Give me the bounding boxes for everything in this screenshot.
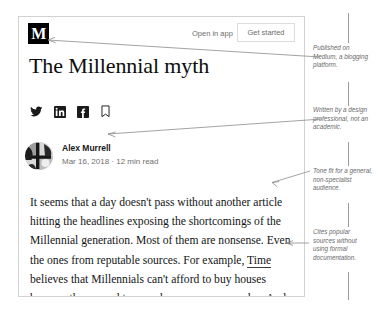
annotation-spine-3: [348, 142, 349, 166]
bookmark-icon[interactable]: [100, 105, 111, 118]
annotation-tone: Tone fit for a general, non-specialist a…: [313, 167, 373, 193]
annotation-sources: Cites popular sources without using form…: [313, 228, 373, 262]
twitter-icon[interactable]: [30, 105, 43, 118]
screenshot-root: M Open in app Get started The Millennial…: [0, 0, 379, 313]
medium-logo-icon[interactable]: M: [28, 23, 49, 44]
share-row: [30, 105, 111, 118]
article-card: M Open in app Get started The Millennial…: [18, 16, 305, 297]
article-topbar: M Open in app Get started: [19, 17, 304, 51]
annotation-spine-1: [348, 13, 349, 43]
body-text-part-2: believes that Millennials can't afford t…: [30, 273, 286, 297]
time-source-link[interactable]: Time: [247, 254, 271, 268]
annotation-spine-5: [348, 272, 349, 300]
facebook-icon[interactable]: [77, 106, 89, 118]
annotation-spine-2: [348, 82, 349, 106]
annotation-author-credential: Written by a design professional, not an…: [313, 106, 373, 132]
annotation-published-on: Published on Medium, a blogging platform…: [313, 44, 373, 70]
open-in-app-link[interactable]: Open in app: [192, 29, 233, 38]
byline-meta: Mar 16, 2018 · 12 min read: [62, 157, 159, 166]
linkedin-icon[interactable]: [54, 106, 66, 118]
author-name[interactable]: Alex Murrell: [62, 143, 111, 153]
article-body: It seems that a day doesn't pass without…: [30, 193, 298, 297]
avatar[interactable]: [25, 142, 53, 170]
article-byline: Alex Murrell Mar 16, 2018 · 12 min read: [25, 141, 295, 179]
get-started-button[interactable]: Get started: [237, 23, 295, 42]
article-headline: The Millennial myth: [29, 53, 209, 79]
annotation-spine-4: [348, 203, 349, 227]
